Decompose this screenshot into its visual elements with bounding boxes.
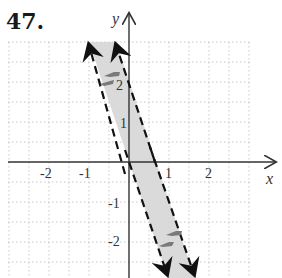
x-tick-label: -1 bbox=[79, 166, 91, 181]
shaded-region bbox=[89, 42, 195, 278]
y-tick-label: -1 bbox=[108, 196, 120, 211]
inequality-graph: -2 -1 1 2 2 1 -1 -2 x y bbox=[0, 0, 282, 278]
x-tick-label: -2 bbox=[40, 166, 52, 181]
x-axis-label: x bbox=[265, 170, 273, 187]
x-tick-label: 1 bbox=[165, 166, 172, 181]
y-tick-label: -2 bbox=[108, 234, 120, 249]
y-axis-label: y bbox=[110, 10, 120, 28]
y-tick-label: 2 bbox=[116, 78, 123, 93]
y-tick-label: 1 bbox=[120, 116, 127, 131]
x-tick-label: 2 bbox=[205, 166, 212, 181]
